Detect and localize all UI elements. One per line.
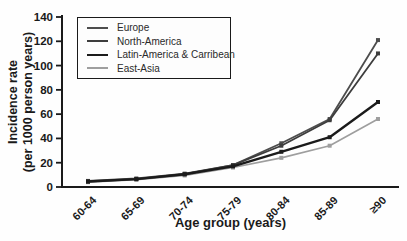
y-tick-label: 0 (47, 181, 53, 193)
data-point-marker-north-america (376, 51, 380, 55)
y-tick-label: 80 (40, 84, 53, 96)
legend-item-latin-america-carribean: Latin-America & Carribean (78, 49, 230, 60)
y-tick-label: 40 (40, 132, 53, 144)
data-point-marker-north-america (279, 144, 283, 148)
legend-item-east-asia: East-Asia (78, 63, 230, 74)
series-line-east-asia (88, 119, 378, 182)
data-point-marker-latin-america-carribean (86, 180, 90, 184)
legend-item-north-america: North-America (78, 36, 230, 47)
y-tick-label: 140 (34, 11, 53, 23)
data-point-marker-europe (376, 38, 380, 42)
legend-swatch-europe (87, 27, 108, 29)
legend-swatch-east-asia (87, 67, 108, 69)
y-axis-title-line2: (per 1000 person years) (21, 32, 36, 172)
y-axis-title-line1: Incidence rate (6, 32, 21, 172)
data-point-marker-east-asia (279, 156, 283, 160)
y-tick-label: 100 (34, 60, 53, 72)
y-axis-title: Incidence rate (per 1000 person years) (6, 32, 36, 172)
legend-swatch-north-america (87, 40, 108, 42)
y-tick-label: 60 (40, 108, 53, 120)
data-point-marker-latin-america-carribean (134, 177, 138, 181)
legend-item-europe: Europe (78, 22, 230, 33)
legend-label: North-America (117, 36, 181, 47)
y-tick-label: 120 (34, 35, 53, 47)
y-tick-label: 20 (40, 157, 53, 169)
legend-label: East-Asia (117, 63, 160, 74)
incidence-rate-chart: 02040608010012014060-6465-6970-7475-7980… (0, 0, 407, 241)
data-point-marker-latin-america-carribean (183, 172, 187, 176)
data-point-marker-east-asia (328, 144, 332, 148)
x-tick-label: ≥90 (367, 194, 388, 215)
legend-swatch-latin-america-carribean (87, 54, 108, 56)
data-point-marker-north-america (328, 118, 332, 122)
legend-label: Europe (117, 22, 149, 33)
data-point-marker-latin-america-carribean (231, 164, 235, 168)
x-axis-title: Age group (years) (54, 215, 407, 230)
data-point-marker-east-asia (376, 117, 380, 121)
data-point-marker-latin-america-carribean (279, 150, 283, 154)
legend: EuropeNorth-AmericaLatin-America & Carri… (77, 17, 231, 79)
data-point-marker-latin-america-carribean (376, 100, 380, 104)
data-point-marker-latin-america-carribean (328, 135, 332, 139)
legend-label: Latin-America & Carribean (117, 49, 235, 60)
